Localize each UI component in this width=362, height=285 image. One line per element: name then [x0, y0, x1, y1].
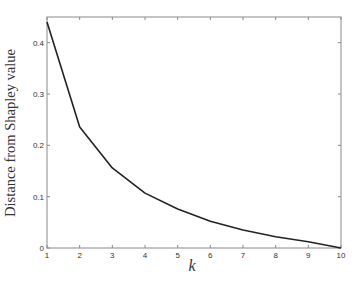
x-tick-label: 10 [337, 251, 346, 260]
y-tick-label: 0.1 [33, 193, 45, 202]
y-tick-label: 0 [40, 244, 45, 253]
line-chart: 12345678910 00.10.20.30.4 k Distance fro… [0, 0, 362, 285]
x-tick-label: 7 [241, 251, 246, 260]
data-line [47, 22, 341, 248]
x-tick-label: 4 [143, 251, 148, 260]
x-tick-label: 8 [273, 251, 278, 260]
y-axis-label: Distance from Shapley value [2, 49, 18, 217]
x-tick-label: 3 [110, 251, 115, 260]
y-tick-label: 0.4 [33, 39, 45, 48]
x-axis-ticks: 12345678910 [45, 17, 346, 260]
x-tick-label: 6 [208, 251, 213, 260]
y-tick-label: 0.3 [33, 90, 45, 99]
x-tick-label: 1 [45, 251, 50, 260]
x-tick-label: 9 [306, 251, 311, 260]
y-axis-ticks: 00.10.20.30.4 [33, 39, 341, 253]
x-tick-label: 5 [175, 251, 180, 260]
x-axis-label: k [188, 257, 196, 274]
plot-area [47, 17, 341, 248]
y-tick-label: 0.2 [33, 141, 45, 150]
x-tick-label: 2 [77, 251, 82, 260]
